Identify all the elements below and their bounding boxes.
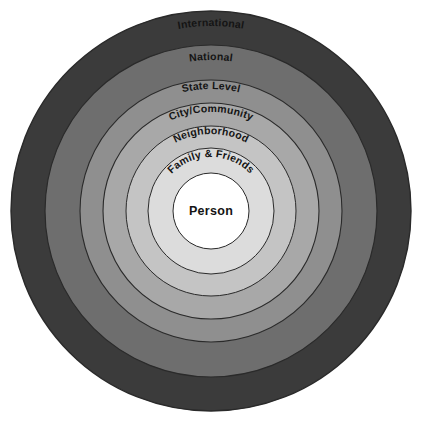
ring-label-national: National: [188, 50, 233, 64]
socio-ecological-diagram: International National State Level City/…: [0, 0, 424, 428]
ring-label-person: Person: [189, 204, 233, 218]
concentric-circles-canvas: International National State Level City/…: [0, 0, 424, 428]
